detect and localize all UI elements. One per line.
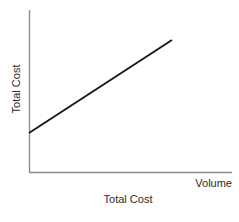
total-cost-line — [29, 40, 172, 133]
y-axis-label: Total Cost — [10, 65, 22, 114]
cost-volume-chart: Total Cost Volume Total Cost — [0, 0, 239, 222]
x-axis-label: Volume — [195, 177, 232, 189]
chart-caption: Total Cost — [104, 193, 153, 205]
